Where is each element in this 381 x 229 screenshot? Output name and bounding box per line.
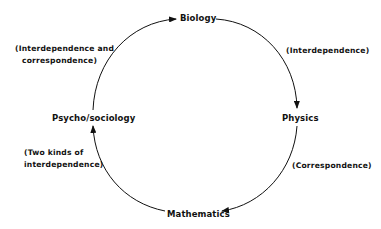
edge-label-line: (Interdependence) bbox=[286, 45, 369, 57]
node-physics: Physics bbox=[282, 113, 319, 123]
edge-label-psycho-biology: (Interdependence and correspondence) bbox=[15, 43, 114, 67]
edge-label-line: (Correspondence) bbox=[292, 160, 372, 172]
edge-label-physics-mathematics: (Correspondence) bbox=[292, 160, 372, 172]
edge-label-biology-physics: (Interdependence) bbox=[286, 45, 369, 57]
arc-mathematics-to-psycho bbox=[93, 126, 165, 211]
node-mathematics: Mathematics bbox=[167, 209, 230, 219]
edge-label-line: interdependence) bbox=[24, 159, 103, 171]
edge-label-line: (Two kinds of bbox=[24, 147, 103, 159]
node-biology: Biology bbox=[180, 13, 216, 23]
arc-physics-to-mathematics bbox=[222, 126, 297, 211]
edge-label-line: (Interdependence and bbox=[15, 43, 114, 55]
edge-label-mathematics-psycho: (Two kinds of interdependence) bbox=[24, 147, 103, 171]
node-psycho-sociology: Psycho/sociology bbox=[52, 113, 135, 123]
edge-label-line: correspondence) bbox=[15, 55, 114, 67]
arc-biology-to-physics bbox=[216, 19, 297, 108]
